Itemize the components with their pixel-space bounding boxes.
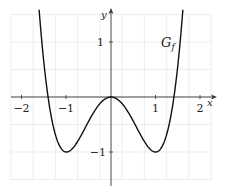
- y-axis-label: y: [100, 9, 107, 20]
- x-axis-label: x: [207, 97, 213, 108]
- tick-x-minus-2: −2: [13, 102, 29, 115]
- tick-y-minus-1: −1: [90, 146, 106, 159]
- tick-x-1: 1: [152, 102, 159, 115]
- curve-label: Gf: [161, 35, 176, 52]
- tick-x-minus-1: −1: [58, 102, 74, 115]
- tick-y-1: 1: [97, 36, 104, 49]
- tick-x-2: 2: [197, 102, 204, 115]
- function-plot: −2 −1 1 2 1 −1 x y Gf: [0, 0, 228, 193]
